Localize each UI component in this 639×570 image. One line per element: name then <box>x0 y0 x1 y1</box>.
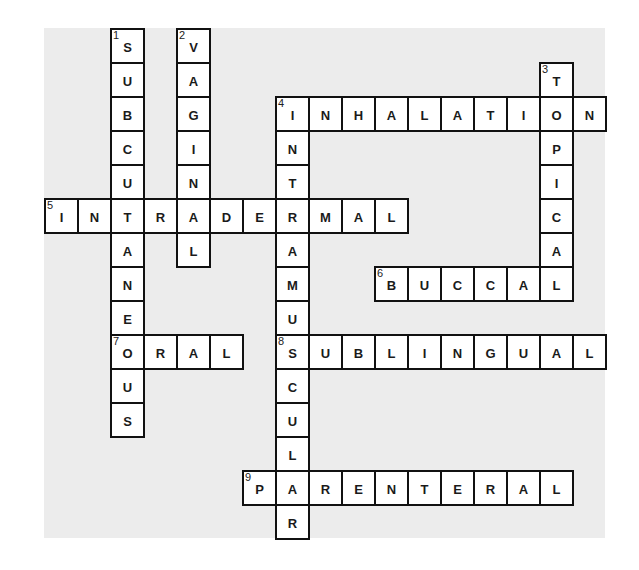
crossword-cell[interactable]: O <box>539 96 574 132</box>
crossword-cell[interactable]: U <box>110 62 145 98</box>
cell-letter: A <box>387 106 396 123</box>
crossword-cell[interactable]: L <box>374 198 409 234</box>
crossword-cell[interactable]: A <box>275 232 310 268</box>
crossword-cell[interactable]: 1S <box>110 28 145 64</box>
crossword-cell[interactable]: L <box>275 436 310 472</box>
crossword-cell[interactable]: N <box>440 334 475 370</box>
crossword-cell[interactable]: N <box>77 198 112 234</box>
crossword-cell[interactable]: L <box>572 334 607 370</box>
crossword-cell[interactable]: B <box>341 334 376 370</box>
crossword-cell[interactable]: C <box>110 130 145 166</box>
crossword-cell[interactable]: A <box>110 232 145 268</box>
crossword-cell[interactable]: R <box>308 470 343 506</box>
crossword-cell[interactable]: A <box>275 470 310 506</box>
crossword-cell[interactable]: N <box>374 470 409 506</box>
cell-letter: U <box>420 276 429 293</box>
crossword-cell[interactable]: I <box>176 130 211 166</box>
cell-letter: N <box>288 140 297 157</box>
cell-letter: I <box>192 140 196 157</box>
crossword-cell[interactable]: 4I <box>275 96 310 132</box>
crossword-cell[interactable]: H <box>341 96 376 132</box>
crossword-cell[interactable]: L <box>539 470 574 506</box>
crossword-cell[interactable]: I <box>407 334 442 370</box>
crossword-cell[interactable]: I <box>506 96 541 132</box>
crossword-cell[interactable]: C <box>539 198 574 234</box>
crossword-cell[interactable]: U <box>275 300 310 336</box>
crossword-cell[interactable]: R <box>473 470 508 506</box>
clue-number: 8 <box>278 335 284 347</box>
cell-letter: B <box>387 276 396 293</box>
crossword-cell[interactable]: S <box>110 402 145 438</box>
crossword-cell[interactable]: T <box>275 164 310 200</box>
crossword-cell[interactable]: U <box>506 334 541 370</box>
crossword-cell[interactable]: N <box>308 96 343 132</box>
cell-letter: B <box>123 106 132 123</box>
crossword-cell[interactable]: M <box>275 266 310 302</box>
crossword-cell[interactable]: U <box>275 402 310 438</box>
crossword-cell[interactable]: 3T <box>539 62 574 98</box>
cell-letter: U <box>288 310 297 327</box>
crossword-cell[interactable]: B <box>110 96 145 132</box>
crossword-cell[interactable]: R <box>275 504 310 540</box>
cell-letter: T <box>289 174 297 191</box>
crossword-cell[interactable]: A <box>341 198 376 234</box>
crossword-cell[interactable]: N <box>275 130 310 166</box>
crossword-cell[interactable]: L <box>176 232 211 268</box>
crossword-cell[interactable]: C <box>440 266 475 302</box>
crossword-cell[interactable]: A <box>176 334 211 370</box>
cell-letter: A <box>288 480 297 497</box>
crossword-cell[interactable]: A <box>176 198 211 234</box>
cell-letter: R <box>321 480 330 497</box>
crossword-cell[interactable]: G <box>473 334 508 370</box>
cell-letter: C <box>453 276 462 293</box>
crossword-cell[interactable]: U <box>110 164 145 200</box>
crossword-cell[interactable]: 8S <box>275 334 310 370</box>
crossword-cell[interactable]: L <box>539 266 574 302</box>
crossword-cell[interactable]: 7O <box>110 334 145 370</box>
crossword-cell[interactable]: L <box>407 96 442 132</box>
crossword-cell[interactable]: A <box>539 334 574 370</box>
crossword-cell[interactable]: D <box>209 198 244 234</box>
crossword-cell[interactable]: E <box>440 470 475 506</box>
crossword-cell[interactable]: A <box>506 470 541 506</box>
crossword-board: 1SUBCUTANE7OUS2VAGINAL3TOPICAL4INHALATIN… <box>44 28 605 538</box>
crossword-cell[interactable]: A <box>440 96 475 132</box>
crossword-cell[interactable]: U <box>407 266 442 302</box>
cell-letter: S <box>123 38 132 55</box>
crossword-cell[interactable]: T <box>110 198 145 234</box>
cell-letter: P <box>255 480 264 497</box>
crossword-cell[interactable]: R <box>143 334 178 370</box>
crossword-cell[interactable]: I <box>539 164 574 200</box>
crossword-cell[interactable]: C <box>275 368 310 404</box>
crossword-cell[interactable]: P <box>539 130 574 166</box>
crossword-cell[interactable]: 2V <box>176 28 211 64</box>
crossword-cell[interactable]: A <box>506 266 541 302</box>
crossword-cell[interactable]: R <box>275 198 310 234</box>
crossword-cell[interactable]: E <box>242 198 277 234</box>
crossword-cell[interactable]: L <box>209 334 244 370</box>
crossword-cell[interactable]: N <box>176 164 211 200</box>
crossword-cell[interactable]: A <box>374 96 409 132</box>
crossword-cell[interactable]: R <box>143 198 178 234</box>
crossword-cell[interactable]: T <box>407 470 442 506</box>
cell-letter: R <box>288 514 297 531</box>
crossword-cell[interactable]: U <box>308 334 343 370</box>
crossword-cell[interactable]: C <box>473 266 508 302</box>
crossword-cell[interactable]: A <box>176 62 211 98</box>
cell-letter: A <box>288 242 297 259</box>
crossword-cell[interactable]: L <box>374 334 409 370</box>
crossword-cell[interactable]: G <box>176 96 211 132</box>
crossword-cell[interactable]: M <box>308 198 343 234</box>
crossword-cell[interactable]: N <box>572 96 607 132</box>
crossword-cell[interactable]: N <box>110 266 145 302</box>
cell-letter: H <box>354 106 363 123</box>
crossword-cell[interactable]: 6B <box>374 266 409 302</box>
crossword-cell[interactable]: A <box>539 232 574 268</box>
crossword-cell[interactable]: U <box>110 368 145 404</box>
crossword-cell[interactable]: 9P <box>242 470 277 506</box>
crossword-cell[interactable]: T <box>473 96 508 132</box>
cell-letter: G <box>188 106 198 123</box>
crossword-cell[interactable]: E <box>110 300 145 336</box>
crossword-cell[interactable]: 5I <box>44 198 79 234</box>
crossword-cell[interactable]: E <box>341 470 376 506</box>
